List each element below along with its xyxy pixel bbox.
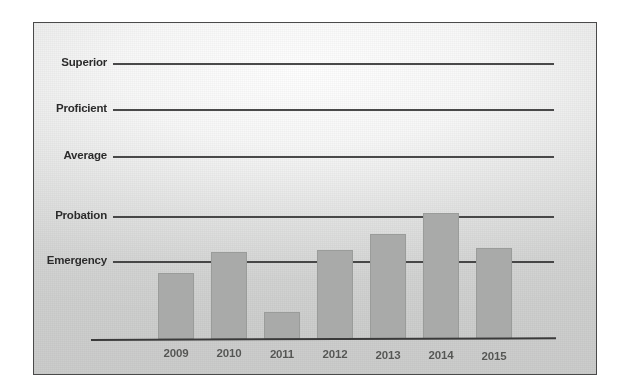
x-axis-label-2015: 2015 bbox=[466, 350, 522, 362]
x-axis-label-2010: 2010 bbox=[201, 347, 257, 359]
x-axis-label-2009: 2009 bbox=[148, 347, 204, 359]
screenshot-root: Superior Proficient Average Probation Em… bbox=[0, 0, 623, 392]
y-axis-label-proficient: Proficient bbox=[39, 102, 107, 114]
x-axis-label-2014: 2014 bbox=[413, 349, 469, 361]
y-axis-label-probation: Probation bbox=[39, 209, 107, 221]
gridline-proficient bbox=[113, 109, 554, 111]
y-axis-label-average: Average bbox=[46, 149, 107, 161]
gridline-average bbox=[113, 156, 554, 158]
bar-2013[interactable] bbox=[370, 234, 406, 339]
x-axis-label-2011: 2011 bbox=[254, 348, 310, 360]
y-axis-label-superior: Superior bbox=[44, 56, 107, 68]
bar-2014[interactable] bbox=[423, 213, 459, 339]
bar-2015[interactable] bbox=[476, 248, 512, 340]
gridline-superior bbox=[113, 63, 554, 65]
y-axis-label-emergency: Emergency bbox=[34, 254, 107, 266]
chart-frame: Superior Proficient Average Probation Em… bbox=[33, 22, 597, 375]
x-axis-baseline bbox=[91, 337, 556, 341]
bar-2012[interactable] bbox=[317, 250, 353, 339]
bar-2010[interactable] bbox=[211, 252, 247, 339]
bar-2009[interactable] bbox=[158, 273, 194, 339]
plot-area: Superior Proficient Average Probation Em… bbox=[34, 23, 596, 374]
bar-2011[interactable] bbox=[264, 312, 300, 339]
x-axis-label-2012: 2012 bbox=[307, 348, 363, 360]
gridline-probation bbox=[113, 216, 554, 218]
x-axis-label-2013: 2013 bbox=[360, 349, 416, 361]
